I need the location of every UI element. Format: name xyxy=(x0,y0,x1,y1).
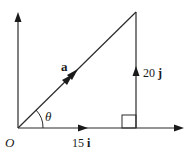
vector-a xyxy=(18,12,136,128)
vertical-component-line xyxy=(133,12,140,128)
j-component-label: 20 j xyxy=(143,66,162,80)
x-axis-arrowhead-icon xyxy=(174,125,184,132)
vector-diagram: O a θ 15 i 20 j xyxy=(0,0,188,158)
right-angle-marker xyxy=(122,115,136,128)
y-axis-arrowhead-icon xyxy=(15,12,22,22)
j-component-arrowhead-icon xyxy=(133,66,140,76)
j-component-value: 20 xyxy=(143,66,155,80)
y-axis xyxy=(15,12,22,128)
i-unit-vector: i xyxy=(87,136,91,150)
j-unit-vector: j xyxy=(157,66,162,80)
i-component-label: 15 i xyxy=(72,136,91,150)
i-component-value: 15 xyxy=(72,136,84,150)
angle-label: θ xyxy=(45,109,52,124)
vector-a-label: a xyxy=(61,59,68,74)
angle-arc xyxy=(36,110,43,128)
i-component-arrowhead-icon xyxy=(78,125,88,132)
origin-label: O xyxy=(5,135,15,150)
